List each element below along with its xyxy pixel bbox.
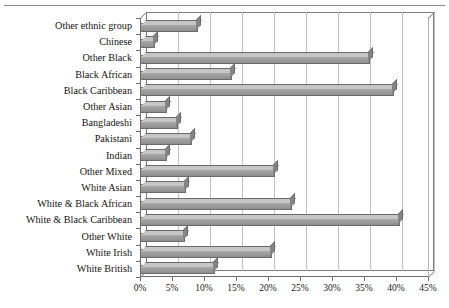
y-axis-label: White Asian: [81, 182, 132, 193]
bar-top-face: [141, 133, 196, 138]
bar-top-face: [141, 52, 374, 57]
y-axis-tick: [136, 261, 140, 262]
y-axis-label: White Irish: [86, 247, 132, 258]
y-axis-label: White & Black African: [37, 198, 132, 209]
y-axis-tick: [136, 180, 140, 181]
y-axis-tick: [136, 212, 140, 213]
y-axis-label: Other White: [82, 231, 132, 242]
x-axis-label: 45%: [408, 283, 448, 294]
bar: [140, 120, 178, 129]
y-axis-label: White British: [77, 263, 132, 274]
x-axis-tick: [300, 277, 301, 281]
bar: [140, 265, 215, 274]
x-axis-tick: [204, 277, 205, 281]
chart-figure: Other ethnic groupChineseOther BlackBlac…: [0, 0, 449, 308]
y-axis-label: Other Black: [82, 52, 132, 63]
gridline: [434, 12, 435, 271]
bar: [140, 217, 400, 226]
bar: [140, 136, 192, 145]
x-axis-tick: [396, 277, 397, 281]
bar: [140, 201, 292, 210]
x-axis-tick: [236, 277, 237, 281]
y-axis-label: Other Mixed: [80, 166, 132, 177]
plot-right-edge: [428, 18, 429, 277]
bar: [140, 87, 394, 96]
bar: [140, 23, 198, 32]
bar-top-face: [141, 181, 190, 186]
bar-top-face: [141, 214, 404, 219]
y-axis-tick: [136, 50, 140, 51]
bar-top-face: [141, 84, 398, 89]
bar-top-face: [141, 20, 202, 25]
bar-top-face: [141, 68, 236, 73]
y-axis-label: White & Black Caribbean: [26, 214, 132, 225]
bar-top-face: [141, 198, 296, 203]
x-axis-tick: [364, 277, 365, 281]
bar: [140, 152, 167, 161]
y-axis-label: Pakistani: [95, 133, 132, 144]
y-axis-tick: [136, 131, 140, 132]
y-axis-tick: [136, 99, 140, 100]
bar: [140, 233, 185, 242]
y-axis-labels: Other ethnic groupChineseOther BlackBlac…: [0, 0, 136, 308]
bar: [140, 249, 272, 258]
bar: [140, 55, 370, 64]
depth-line-bottom-right: [428, 271, 435, 278]
y-axis-label: Bangladeshi: [82, 117, 132, 128]
bar: [140, 71, 232, 80]
y-axis-tick: [136, 164, 140, 165]
y-axis-label: Indian: [106, 150, 132, 161]
x-axis-tick: [172, 277, 173, 281]
x-axis-tick: [268, 277, 269, 281]
bar-top-face: [141, 246, 276, 251]
bar-top-face: [141, 230, 189, 235]
bar: [140, 184, 186, 193]
y-axis-label: Other ethnic group: [55, 20, 132, 31]
x-axis-tick: [332, 277, 333, 281]
bar: [140, 168, 275, 177]
y-axis-tick: [136, 196, 140, 197]
y-axis-tick: [136, 67, 140, 68]
y-axis-tick: [136, 148, 140, 149]
y-axis-tick: [136, 245, 140, 246]
y-axis-label: Other Asian: [83, 101, 132, 112]
y-axis-label: Chinese: [99, 36, 132, 47]
y-axis-tick: [136, 34, 140, 35]
y-axis-tick: [136, 115, 140, 116]
x-axis-tick: [428, 277, 429, 281]
x-axis-tick: [140, 277, 141, 281]
bar-top-face: [141, 262, 219, 267]
y-axis-tick: [136, 18, 140, 19]
y-axis-tick: [136, 83, 140, 84]
bar: [140, 104, 167, 113]
y-axis-label: Black Caribbean: [64, 85, 132, 96]
bar-top-face: [141, 165, 279, 170]
bar: [140, 39, 155, 48]
y-axis-tick: [136, 228, 140, 229]
y-axis-label: Black African: [75, 69, 132, 80]
